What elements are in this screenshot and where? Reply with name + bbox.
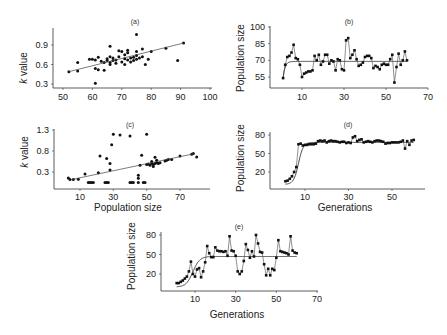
panel-a-ylabel: k value <box>18 52 29 84</box>
panel-c-title: (c) <box>126 121 134 129</box>
svg-text:30: 30 <box>108 192 118 202</box>
panel-c-points <box>67 133 198 184</box>
svg-text:50: 50 <box>142 192 152 202</box>
panel-d-title: (d) <box>344 121 353 129</box>
panel-d-xlabel: Generations <box>318 202 372 213</box>
panel-c-ylabel: k value <box>19 136 30 168</box>
svg-text:80: 80 <box>146 92 156 102</box>
panel-e-title: (e) <box>235 223 244 231</box>
panel-c-axes: 103050700.30.81.3 <box>36 125 210 202</box>
svg-text:100: 100 <box>250 22 265 32</box>
svg-text:100: 100 <box>202 92 217 102</box>
svg-text:85: 85 <box>255 39 265 49</box>
panel-a-axes: 50607080901000.30.60.9 <box>35 28 217 102</box>
svg-text:20: 20 <box>255 167 265 177</box>
svg-text:20: 20 <box>146 269 156 279</box>
panel-e-ylabel: Population size <box>126 222 137 290</box>
svg-text:80: 80 <box>255 130 265 140</box>
panel-b: (b) Population size 10305070557085100 <box>235 18 433 102</box>
panel-b-title: (b) <box>345 18 354 26</box>
svg-text:50: 50 <box>387 192 397 202</box>
svg-text:60: 60 <box>87 92 97 102</box>
svg-text:10: 10 <box>300 192 310 202</box>
panel-e: (e) Population size Generations 10305070… <box>126 222 322 320</box>
svg-text:70: 70 <box>175 192 185 202</box>
svg-text:50: 50 <box>381 92 391 102</box>
panel-b-series <box>282 37 409 84</box>
svg-text:50: 50 <box>255 149 265 159</box>
svg-text:10: 10 <box>190 294 200 304</box>
svg-text:50: 50 <box>146 250 156 260</box>
svg-text:10: 10 <box>75 192 85 202</box>
svg-text:0.3: 0.3 <box>36 167 49 177</box>
svg-text:30: 30 <box>231 294 241 304</box>
svg-text:70: 70 <box>117 92 127 102</box>
svg-text:30: 30 <box>343 192 353 202</box>
svg-text:1.3: 1.3 <box>36 125 49 135</box>
svg-text:30: 30 <box>339 92 349 102</box>
panel-b-ylabel: Population size <box>235 24 246 92</box>
panel-c: (c) k value Population size 103050700.30… <box>19 121 210 213</box>
svg-text:55: 55 <box>255 72 265 82</box>
svg-text:70: 70 <box>312 294 322 304</box>
svg-text:50: 50 <box>271 294 281 304</box>
panel-d: (d) Population size Generations 10305020… <box>235 121 425 213</box>
panel-a-points <box>67 33 185 85</box>
panel-e-xlabel: Generations <box>210 309 264 320</box>
svg-text:0.9: 0.9 <box>35 40 48 50</box>
svg-text:0.3: 0.3 <box>35 79 48 89</box>
svg-text:90: 90 <box>176 92 186 102</box>
panel-e-series <box>175 234 298 287</box>
svg-text:70: 70 <box>423 92 433 102</box>
panel-a-title: (a) <box>131 18 140 26</box>
svg-text:0.6: 0.6 <box>35 60 48 70</box>
svg-text:10: 10 <box>297 92 307 102</box>
panel-c-xlabel: Population size <box>94 202 162 213</box>
svg-text:80: 80 <box>146 230 156 240</box>
panel-d-ylabel: Population size <box>235 124 246 192</box>
figure: (a) k value 50607080901000.30.60.9 (b) P… <box>0 0 447 335</box>
svg-text:50: 50 <box>58 92 68 102</box>
panel-d-series <box>284 135 415 184</box>
svg-text:0.8: 0.8 <box>36 146 49 156</box>
panel-a: (a) k value 50607080901000.30.60.9 <box>18 18 218 102</box>
panel-b-axes: 10305070557085100 <box>250 22 433 102</box>
svg-text:70: 70 <box>255 55 265 65</box>
panel-e-axes: 10305070205080 <box>146 230 322 304</box>
